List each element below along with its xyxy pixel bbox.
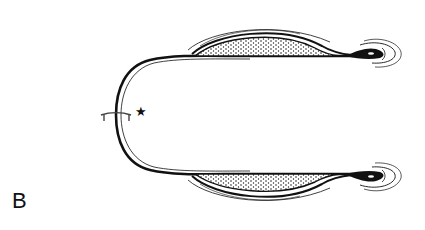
panel-label: B [12, 190, 27, 212]
top-bulb [345, 48, 383, 59]
bottom-bulb [345, 171, 383, 182]
u-curve-outer [116, 56, 380, 175]
asterisk-marker: ★ [135, 105, 147, 118]
u-shaped-structure-drawing [0, 0, 425, 230]
